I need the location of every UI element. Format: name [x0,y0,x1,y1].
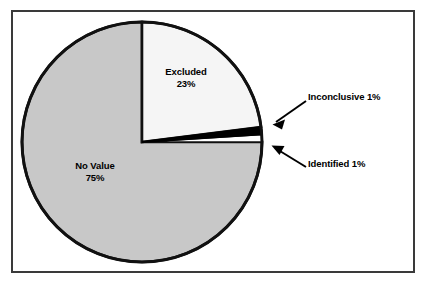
callout-label-identified: Identified 1% [308,158,365,169]
slice-label-no-value-value: 75% [40,172,150,184]
pie-chart-figure: Excluded 23% No Value 75% Inconclusive 1… [0,0,426,286]
callout-label-inconclusive: Inconclusive 1% [308,91,380,102]
slice-label-excluded-value: 23% [142,78,230,90]
chart-plot-area: Excluded 23% No Value 75% Inconclusive 1… [0,0,426,286]
slice-label-no-value-name: No Value [40,160,150,172]
identified-callout-arrow [272,146,307,168]
inconclusive-callout-arrow [273,101,307,130]
slice-label-no-value: No Value 75% [40,160,150,184]
slice-label-excluded-name: Excluded [142,66,230,78]
pie-graphic [0,0,426,286]
slice-label-excluded: Excluded 23% [142,66,230,90]
